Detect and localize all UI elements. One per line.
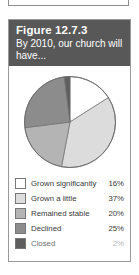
legend-label: Grown a little [31,194,104,203]
legend-label: Remained stable [31,209,104,218]
legend-row: Declined25% [15,222,124,235]
legend-value: 20% [104,209,124,218]
legend-swatch [15,208,26,219]
legend: Grown significantly16%Grown a little37%R… [15,177,124,250]
legend-row: Grown a little37% [15,192,124,205]
chart-body: Grown significantly16%Grown a little37%R… [9,66,130,261]
legend-label: Closed [31,239,104,248]
figure-header: Figure 12.7.3 By 2010, our church will h… [9,20,130,66]
legend-swatch [15,238,26,249]
figure-subtitle: By 2010, our church will have... [16,38,123,61]
figure-card: Figure 12.7.3 By 2010, our church will h… [8,19,131,262]
pie-chart-svg [20,72,120,172]
legend-value: 25% [104,224,124,233]
pie-chart [20,72,120,172]
pie-slice [24,77,69,128]
legend-row: Remained stable20% [15,207,124,220]
legend-swatch [15,223,26,234]
legend-swatch [15,193,26,204]
legend-row: Grown significantly16% [15,177,124,190]
adjacent-box-fragment [8,0,129,6]
legend-swatch [15,178,26,189]
legend-row: Closed2% [15,237,124,250]
legend-label: Grown significantly [31,179,104,188]
legend-value: 16% [104,179,124,188]
figure-title: Figure 12.7.3 [16,24,123,37]
legend-label: Declined [31,224,104,233]
legend-value: 2% [104,239,124,248]
legend-value: 37% [104,194,124,203]
